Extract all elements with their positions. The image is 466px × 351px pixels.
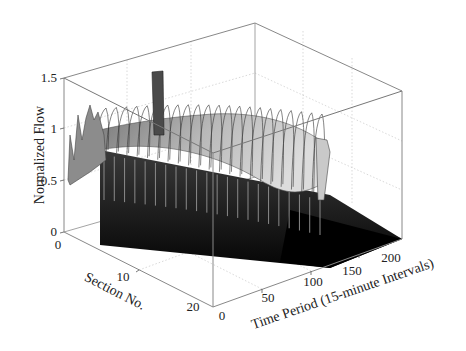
y-tick-0: 0 (219, 308, 226, 323)
z-tick-1-5: 1.5 (41, 70, 57, 85)
z-axis-label: Normalized Flow (32, 105, 47, 204)
y-tick-50: 50 (262, 290, 275, 305)
surface-plot: 1.5 1 0.5 0 0 10 20 0 50 100 150 200 Nor… (0, 0, 466, 351)
y-tick-100: 100 (303, 274, 323, 289)
x-tick-10: 10 (117, 269, 130, 284)
x-axis-label: Section No. (82, 269, 148, 312)
x-tick-20: 20 (187, 299, 200, 314)
y-tick-200: 200 (381, 250, 401, 265)
x-tick-0: 0 (55, 237, 62, 252)
z-tick-1: 1 (51, 121, 58, 136)
y-tick-150: 150 (342, 263, 362, 278)
